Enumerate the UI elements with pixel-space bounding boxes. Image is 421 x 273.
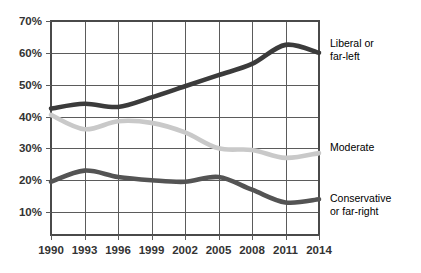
x-tick-label-2011: 2011 bbox=[273, 244, 299, 256]
y-tick-label-60: 60% bbox=[19, 47, 42, 59]
x-tick-label-1996: 1996 bbox=[105, 244, 131, 256]
x-tick-label-1990: 1990 bbox=[38, 244, 64, 256]
x-tick-label-2014: 2014 bbox=[306, 244, 332, 256]
series-label-liberal: Liberal or far-left bbox=[330, 37, 374, 63]
x-tick-label-2005: 2005 bbox=[206, 244, 232, 256]
series-label-conservative: Conservative or far-right bbox=[330, 192, 391, 218]
y-tick-label-50: 50% bbox=[19, 79, 42, 91]
x-tick-label-2008: 2008 bbox=[239, 244, 265, 256]
series-label-moderate-line1: Moderate bbox=[330, 141, 374, 154]
series-label-liberal-line1: Liberal or bbox=[330, 37, 374, 50]
y-tick-label-30: 30% bbox=[19, 142, 42, 154]
x-tick-label-1999: 1999 bbox=[139, 244, 165, 256]
series-label-conservative-line1: Conservative bbox=[330, 192, 391, 205]
series-label-liberal-line2: far-left bbox=[330, 50, 374, 63]
y-tick-label-40: 40% bbox=[19, 111, 42, 123]
y-tick-label-20: 20% bbox=[19, 174, 42, 186]
series-label-moderate: Moderate bbox=[330, 141, 374, 154]
political-identification-line-chart: 10%20%30%40%50%60%70% 199019931996199920… bbox=[0, 0, 421, 273]
series-label-conservative-line2: or far-right bbox=[330, 205, 391, 218]
x-tick-label-2002: 2002 bbox=[172, 244, 198, 256]
y-tick-label-70: 70% bbox=[19, 15, 42, 27]
y-tick-label-10: 10% bbox=[19, 206, 42, 218]
x-axis-tick-labels-group: 199019931996199920022005200820112014 bbox=[38, 244, 332, 256]
x-tick-label-1993: 1993 bbox=[72, 244, 98, 256]
